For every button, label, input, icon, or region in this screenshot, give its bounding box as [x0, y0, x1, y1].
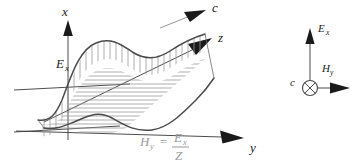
electric-field-wave [38, 34, 205, 120]
em-wave-diagram: x y z [0, 0, 355, 164]
inset-electric-label: E [317, 22, 325, 34]
svg-text:x: x [64, 63, 69, 73]
axis-z-label: z [217, 30, 223, 45]
equation-numerator: E [173, 130, 182, 145]
axis-y: y [16, 131, 256, 156]
axis-x-label: x [61, 4, 68, 19]
electric-field-hatching [44, 20, 200, 145]
propagation-label-c: c [212, 0, 218, 15]
inset-field-orientation: E x H y c [290, 22, 350, 96]
equation-lhs: H [139, 134, 150, 149]
electric-field-label: E x [55, 56, 69, 73]
equation-lhs-sub: y [149, 141, 154, 151]
sheet-endcap-left [38, 120, 44, 128]
axis-y-label: y [248, 140, 256, 155]
svg-text:E: E [55, 56, 64, 71]
propagation-arrow-c: c [160, 0, 218, 28]
equation-numerator-sub: x [182, 137, 187, 147]
inset-electric-sub: x [325, 28, 330, 37]
inset-magnetic-sub: y [329, 68, 334, 77]
magnetic-field-hatching [20, 60, 230, 132]
equation-equals: = [159, 134, 168, 149]
inset-propagation-label: c [290, 76, 295, 88]
wave-impedance-equation: H y = E x Z [139, 130, 189, 163]
equation-denominator: Z [175, 148, 183, 163]
diagram-canvas: x y z [0, 0, 355, 164]
